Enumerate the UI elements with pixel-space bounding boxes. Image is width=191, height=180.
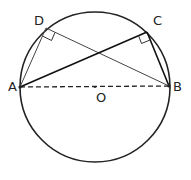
point-a [18,85,21,88]
point-b [167,84,170,87]
label-a: A [8,80,17,93]
label-d: D [34,14,44,27]
label-c: C [153,14,162,27]
right-angle-marker-d [43,33,56,41]
geometry-diagram: D C A B O [0,0,191,180]
point-o [94,86,96,88]
chord-cb [147,32,169,86]
label-b: B [173,80,182,93]
chord-ac [20,32,147,87]
label-o: O [96,91,106,104]
